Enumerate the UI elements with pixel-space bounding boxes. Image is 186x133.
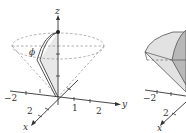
y-axis-label: y [121, 99, 128, 109]
tick-label-x2: 2 [27, 106, 33, 116]
phi-label: ϕ [29, 47, 35, 57]
right-tick-label-neg2: −2 [143, 93, 156, 103]
figure-canvas: z y x −2 2 1 2 ϕ −2 2 x [0, 0, 186, 133]
z-axis-label: z [54, 6, 60, 16]
x-arrow-icon [31, 120, 36, 126]
right-panel: −2 2 x [143, 30, 186, 133]
tick-label-neg2: −2 [4, 93, 17, 103]
right-tick-label-x2: 2 [163, 108, 169, 118]
right-x-axis-label: x [157, 123, 162, 133]
y-arrow-icon [115, 102, 121, 106]
top-point [56, 30, 60, 34]
tick-label-y2: 2 [96, 106, 102, 116]
x-axis-label: x [23, 122, 28, 132]
left-panel: z y x −2 2 1 2 ϕ [4, 6, 128, 132]
tick-label-y1: 1 [72, 103, 78, 113]
